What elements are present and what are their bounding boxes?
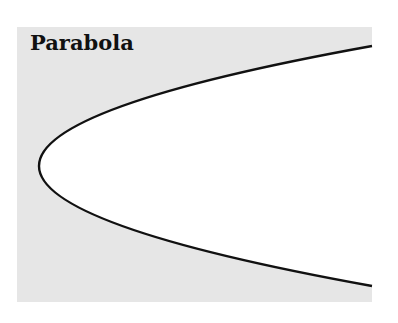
figure-title: Parabola: [30, 30, 134, 55]
